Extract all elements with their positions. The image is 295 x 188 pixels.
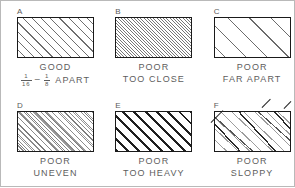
rectangle-outline-b <box>115 17 192 58</box>
panel-f: F POOR SLOPPY <box>198 95 295 188</box>
hatch-rectangle-e <box>115 111 192 152</box>
panel-grid: A GOOD 1 16 – 1 8 APART <box>1 1 295 187</box>
panel-a: A GOOD 1 16 – 1 8 APART <box>1 1 99 95</box>
caption-f-quality: POOR <box>237 156 268 166</box>
caption-f-detail: SLOPPY <box>198 167 295 179</box>
sloppy-overshoot-line-2 <box>261 98 270 107</box>
hatch-pattern-uneven-layer-3 <box>17 111 94 152</box>
fraction-one-eighth: 1 8 <box>44 73 50 87</box>
rectangle-outline-d <box>17 111 94 152</box>
hatch-rectangle-c <box>214 17 291 58</box>
hatch-rectangle-b <box>115 17 192 58</box>
caption-c: POOR FAR APART <box>198 61 295 85</box>
caption-d: POOR UNEVEN <box>1 155 110 179</box>
caption-f: POOR SLOPPY <box>198 155 295 179</box>
rectangle-outline-e <box>115 111 192 152</box>
caption-b-detail: TOO CLOSE <box>99 73 208 85</box>
caption-e-quality: POOR <box>138 156 169 166</box>
spacing-range-dash: – <box>35 74 41 84</box>
fraction-one-sixteenth: 1 16 <box>21 73 32 87</box>
panel-letter-f: F <box>214 102 219 110</box>
caption-c-quality: POOR <box>237 62 268 72</box>
rectangle-outline-f <box>214 111 291 152</box>
hatch-pattern-good <box>17 17 94 58</box>
rectangle-outline-c <box>214 17 291 58</box>
caption-a: GOOD <box>1 61 110 73</box>
caption-d-detail: UNEVEN <box>1 167 110 179</box>
panel-c: C POOR FAR APART <box>198 1 295 95</box>
fraction-min-denominator: 16 <box>21 80 32 88</box>
hatch-pattern-far-apart <box>214 17 291 58</box>
caption-b: POOR TOO CLOSE <box>99 61 208 85</box>
caption-d-quality: POOR <box>40 156 71 166</box>
panel-letter-c: C <box>214 8 220 16</box>
caption-a-spacing: 1 16 – 1 8 APART <box>1 73 110 87</box>
caption-e: POOR TOO HEAVY <box>99 155 208 179</box>
panel-e: E POOR TOO HEAVY <box>99 95 197 188</box>
caption-a-quality: GOOD <box>40 62 72 72</box>
caption-c-detail: FAR APART <box>198 73 295 85</box>
panel-letter-a: A <box>17 8 23 16</box>
panel-letter-d: D <box>17 102 23 110</box>
hatch-rectangle-d <box>17 111 94 152</box>
hatch-pattern-too-close <box>115 17 192 58</box>
hatch-pattern-sloppy-layer-3 <box>214 111 291 152</box>
panel-d: D POOR UNEVEN <box>1 95 99 188</box>
sloppy-overshoot-line-3 <box>283 101 291 109</box>
caption-b-quality: POOR <box>138 62 169 72</box>
fraction-max-denominator: 8 <box>44 80 50 88</box>
caption-a-detail: APART <box>55 75 90 85</box>
panel-letter-b: B <box>115 8 121 16</box>
caption-e-detail: TOO HEAVY <box>99 167 208 179</box>
hatch-rectangle-f <box>214 111 291 152</box>
hatch-pattern-too-heavy <box>115 111 192 152</box>
rectangle-outline-a <box>17 17 94 58</box>
hatch-rectangle-a <box>17 17 94 58</box>
panel-letter-e: E <box>115 102 121 110</box>
panel-b: B POOR TOO CLOSE <box>99 1 197 95</box>
section-lining-figure: A GOOD 1 16 – 1 8 APART <box>0 0 295 187</box>
